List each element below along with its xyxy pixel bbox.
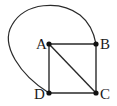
vertex-a: [46, 41, 51, 46]
vertex-d: [46, 90, 51, 95]
label-a: A: [36, 36, 47, 52]
graph-diagram: A B C D: [0, 0, 117, 106]
edge-a-c: [49, 44, 96, 93]
label-c: C: [100, 86, 110, 102]
vertex-c: [93, 90, 98, 95]
label-d: D: [34, 86, 45, 102]
label-b: B: [100, 36, 110, 52]
vertex-b: [93, 41, 98, 46]
